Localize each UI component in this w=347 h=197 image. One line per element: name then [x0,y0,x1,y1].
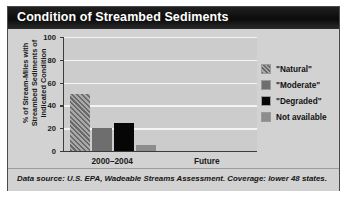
bar-moderate [92,128,112,151]
chart-card: Condition of Streambed Sediments % of St… [7,6,340,191]
legend-item: "Degraded" [261,93,339,109]
y-axis-tickmark [60,83,64,84]
legend-label: "Degraded" [276,97,322,106]
chart-title-bar: Condition of Streambed Sediments [8,7,339,29]
legend-label: "Natural" [276,65,312,74]
y-axis-tickmark [60,60,64,61]
plot-area [63,37,257,152]
gridline [64,60,257,61]
chart-legend: "Natural""Moderate""Degraded"Not availab… [261,61,339,125]
page-title: Condition of Streambed Sediments [17,10,229,24]
legend-item: "Natural" [261,61,339,77]
y-axis-tick-label: 80 [32,55,56,64]
bar-degraded [114,123,134,152]
y-axis-tick-label: 100 [32,33,56,42]
legend-swatch-degraded [261,96,271,106]
x-axis-tick-label: 2000–2004 [91,156,133,166]
y-axis-tickmark [60,105,64,106]
legend-label: "Moderate" [276,81,320,90]
y-axis-tickmark [60,151,64,152]
y-axis-tick-label: 0 [32,147,56,156]
gridline [64,37,257,38]
legend-swatch-natural [261,64,271,74]
legend-item: Not available [261,109,339,125]
bar-notavail [136,145,156,151]
legend-label: Not available [276,113,327,122]
y-axis-tickmark [60,128,64,129]
footnote-area: Data source: U.S. EPA, Wadeable Streams … [8,168,339,191]
legend-item: "Moderate" [261,77,339,93]
gridline [64,105,257,106]
y-axis-tick-labels: 020406080100 [32,37,56,151]
x-axis-tick-label: Future [194,156,220,166]
legend-swatch-moderate [261,80,271,90]
bar-natural [70,94,90,151]
data-source-note: Data source: U.S. EPA, Wadeable Streams … [17,174,327,183]
y-axis-tick-label: 60 [32,78,56,87]
y-axis-tick-label: 20 [32,124,56,133]
chart-body: % of Stream-Miles with Streambed Sedimen… [8,29,339,168]
y-axis-tickmark [60,37,64,38]
y-axis-tick-label: 40 [32,101,56,110]
legend-swatch-notavail [261,112,271,122]
gridline [64,83,257,84]
